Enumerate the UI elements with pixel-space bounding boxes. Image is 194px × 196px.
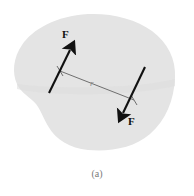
rigid-body-blob [14,14,175,151]
distance-label-r: r [90,79,94,88]
couple-force-diagram: F F r (a) [0,0,194,196]
diagram-canvas [0,0,194,196]
force-label-bottom: F [128,116,135,127]
figure-caption: (a) [0,169,194,179]
force-label-top: F [62,29,69,40]
